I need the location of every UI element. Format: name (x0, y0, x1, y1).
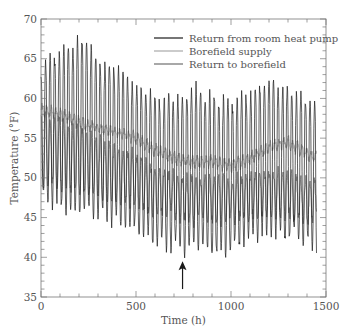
x-axis-tick-labels: 050010001500 (38, 300, 340, 312)
temperature-chart: 050010001500 3540455055606570 Time (h) T… (0, 0, 348, 336)
x-tick-label: 0 (38, 300, 45, 312)
y-axis-tick-labels: 3540455055606570 (24, 13, 37, 303)
y-tick-label: 35 (24, 291, 37, 303)
y-tick-label: 45 (24, 211, 37, 223)
legend-label-return-to-borefield: Return to borefield (189, 59, 286, 70)
y-tick-label: 40 (24, 251, 37, 263)
y-tick-label: 60 (24, 92, 37, 104)
y-tick-label: 55 (24, 132, 37, 144)
y-axis-title: Temperature (°F) (8, 112, 20, 205)
y-tick-label: 70 (24, 13, 37, 25)
y-tick-label: 50 (24, 171, 37, 183)
legend-label-borefield-supply: Borefield supply (189, 46, 272, 57)
legend: Return from room heat pump Borefield sup… (154, 33, 338, 70)
legend-label-return-from-heat-pump: Return from room heat pump (189, 33, 338, 44)
x-tick-label: 1500 (313, 300, 340, 312)
x-tick-label: 500 (126, 300, 146, 312)
y-tick-label: 65 (24, 52, 37, 64)
arrow-annotation (179, 261, 187, 289)
x-tick-label: 1000 (218, 300, 245, 312)
x-axis-title: Time (h) (161, 314, 206, 326)
